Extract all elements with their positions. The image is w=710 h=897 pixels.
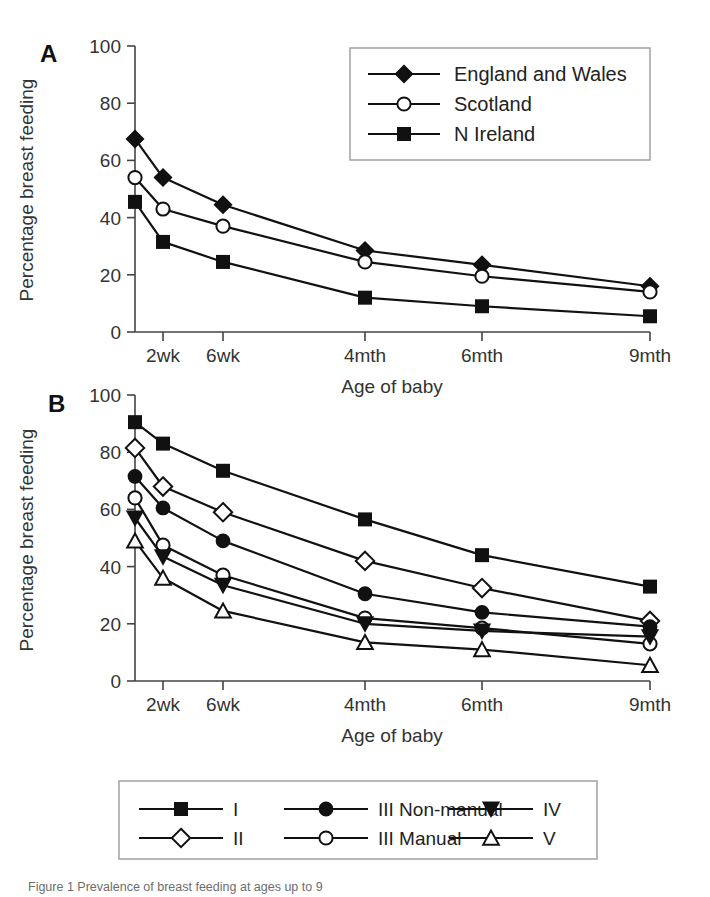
panel-a-legend-label: N Ireland — [454, 123, 535, 145]
panel_b-data-point — [127, 511, 143, 525]
panel_b-data-point — [214, 503, 232, 521]
panel-a-legend-label: Scotland — [454, 93, 532, 115]
panel_b-data-point — [476, 549, 488, 561]
legend-marker-diamond-open — [172, 829, 190, 847]
panel_a-ytick-label: 100 — [89, 36, 121, 57]
legend-marker-circle-filled — [319, 802, 332, 815]
panel_b-data-point — [155, 571, 171, 585]
panel_b-ytick-label: 60 — [100, 499, 121, 520]
panel_b-xtick-label: 4mth — [344, 694, 386, 715]
panel_a-data-point — [157, 236, 169, 248]
panel_b-data-point — [154, 477, 172, 495]
panel_b-xtick-label: 2wk — [146, 694, 180, 715]
panel_a-letter: A — [40, 40, 57, 67]
panel-b-legend-item[interactable]: II — [139, 828, 244, 849]
panel-b-legend-box — [119, 781, 597, 859]
panel_a-ytick-label: 60 — [100, 150, 121, 171]
panel_b-data-point — [128, 470, 141, 483]
panel_a-plot: A1008060402002wk6wk4mth6mth9mthPercentag… — [16, 36, 671, 397]
panel_a-series-3 — [129, 196, 656, 323]
panel_b-series-line — [135, 541, 650, 665]
panel_a-data-point — [359, 291, 371, 303]
panel-a-legend-item[interactable]: Scotland — [368, 93, 532, 115]
panel_a-ytick-label: 0 — [110, 322, 121, 343]
panel-b-legend-label: I — [233, 799, 238, 820]
breastfeeding-figure: A1008060402002wk6wk4mth6mth9mthPercentag… — [0, 0, 710, 880]
panel_b-ytick-label: 0 — [110, 671, 121, 692]
panel-b-legend-label: II — [233, 828, 244, 849]
panel_b-xtick-label: 6wk — [206, 694, 240, 715]
panel_a-data-point — [155, 169, 172, 186]
panel_b-data-point — [359, 513, 371, 525]
panel_a-data-point — [156, 202, 169, 215]
panel-a-legend-item[interactable]: England and Wales — [368, 63, 627, 85]
panel_a-ytick-label: 80 — [100, 93, 121, 114]
panel_b-data-point — [157, 437, 169, 449]
panel-b-legend-label: V — [543, 828, 556, 849]
panel_a-data-point — [215, 196, 232, 213]
legend-marker-circle-open — [397, 97, 410, 110]
panel_a-data-point — [643, 285, 656, 298]
panel_b-data-point — [473, 579, 491, 597]
panel_b-series-line — [135, 422, 650, 586]
panel-b-legend-label: III Manual — [378, 828, 461, 849]
panel_b-data-point — [644, 580, 656, 592]
legend-marker-circle-open — [319, 831, 332, 844]
panel_b-xtick-label: 9mth — [629, 694, 671, 715]
panel-b-legend-item[interactable]: I — [139, 799, 238, 820]
panel-b-legend-item[interactable]: III Manual — [284, 828, 461, 849]
panel_b-data-point — [475, 606, 488, 619]
panel_a-series-line — [135, 202, 650, 316]
panel_b-series-line — [135, 498, 650, 644]
panel_b-ytick-label: 20 — [100, 614, 121, 635]
panel_b-ytick-label: 40 — [100, 557, 121, 578]
panel_a-data-point — [128, 171, 141, 184]
panel_b-xtick-label: 6mth — [461, 694, 503, 715]
panel_b-data-point — [127, 533, 143, 547]
panel_a-data-point — [358, 255, 371, 268]
panel-b-legend-label: IV — [543, 799, 561, 820]
figure-container: A1008060402002wk6wk4mth6mth9mthPercentag… — [0, 0, 710, 897]
panel_a-series-line — [135, 139, 650, 286]
panel_b-plot: B1008060402002wk6wk4mth6mth9mthPercentag… — [16, 385, 671, 746]
panel_a-xtick-label: 9mth — [629, 345, 671, 366]
panel_a-data-point — [476, 300, 488, 312]
panel_b-data-point — [129, 416, 141, 428]
panel_a-series-line — [135, 178, 650, 292]
panel-b-legend-item[interactable]: V — [449, 828, 556, 849]
panel_b-data-point — [126, 439, 144, 457]
panel_a-data-point — [216, 220, 229, 233]
panel_b-series-6 — [127, 533, 658, 671]
panel_b-data-point — [356, 552, 374, 570]
panel-a-legend-item[interactable]: N Ireland — [368, 123, 535, 145]
panel_b-data-point — [128, 491, 141, 504]
panel_a-xtick-label: 6wk — [206, 345, 240, 366]
panel_a-xtick-label: 4mth — [344, 345, 386, 366]
panel_b-data-point — [216, 534, 229, 547]
panel_a-y-axis-title: Percentage breast feeding — [16, 79, 37, 302]
panel_a-series-2 — [128, 171, 656, 299]
panel_b-y-axis-title: Percentage breast feeding — [16, 429, 37, 652]
panel_a-data-point — [129, 196, 141, 208]
panel-a-legend-label: England and Wales — [454, 63, 627, 85]
panel_a-ytick-label: 40 — [100, 208, 121, 229]
legend-marker-square-filled — [398, 128, 410, 140]
panel_a-data-point — [127, 131, 144, 148]
panel_b-series-3 — [128, 470, 656, 633]
panel_b-data-point — [155, 550, 171, 564]
panel_a-series-1 — [127, 131, 659, 295]
panel_a-xtick-label: 6mth — [461, 345, 503, 366]
panel_b-letter: B — [48, 390, 65, 417]
legend-marker-diamond-filled — [396, 66, 413, 83]
panel_b-ytick-label: 80 — [100, 442, 121, 463]
panel_a-x-axis-title: Age of baby — [341, 376, 443, 397]
panel_b-data-point — [156, 501, 169, 514]
panel_a-ytick-label: 20 — [100, 265, 121, 286]
panel_b-ytick-label: 100 — [89, 385, 121, 406]
panel-b-legend: IIIIII Non-manualIII ManualIVV — [119, 781, 597, 859]
panel_b-x-axis-title: Age of baby — [341, 725, 443, 746]
panel_a-xtick-label: 2wk — [146, 345, 180, 366]
panel_a-data-point — [475, 270, 488, 283]
figure-caption: Figure 1 Prevalence of breast feeding at… — [28, 880, 688, 894]
panel_a-data-point — [644, 310, 656, 322]
